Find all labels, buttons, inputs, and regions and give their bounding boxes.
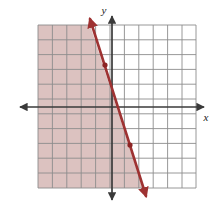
y-axis-label: y <box>101 4 107 16</box>
graph-figure: y x <box>0 0 222 213</box>
line-point-marker-2 <box>127 142 132 147</box>
x-axis-label: x <box>203 111 209 123</box>
shaded-region <box>38 25 148 205</box>
line-point-marker-1 <box>102 62 107 67</box>
coordinate-plane-svg: y x <box>0 0 222 213</box>
